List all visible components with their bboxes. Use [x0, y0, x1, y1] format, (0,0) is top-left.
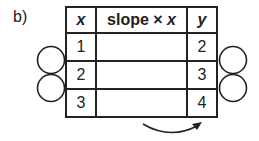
left-difference-circle-2[interactable]	[38, 75, 65, 102]
annotation-overlay	[0, 0, 259, 141]
right-difference-circle-2[interactable]	[220, 75, 247, 102]
arrowhead-icon	[192, 122, 202, 130]
curved-arrow-icon	[143, 124, 197, 133]
left-difference-circle-1[interactable]	[38, 47, 65, 74]
right-difference-circle-1[interactable]	[220, 47, 247, 74]
